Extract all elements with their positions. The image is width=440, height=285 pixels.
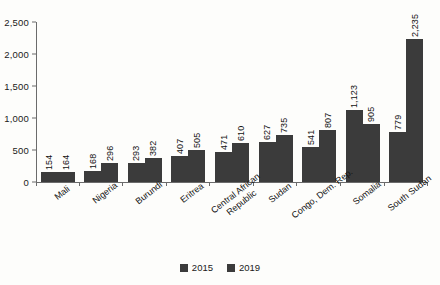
bar[interactable] xyxy=(58,172,75,182)
bar[interactable] xyxy=(215,152,232,182)
x-axis-category-label-line: Somalia xyxy=(351,179,383,207)
x-axis-tick-mark xyxy=(209,182,210,186)
bar[interactable] xyxy=(232,143,249,182)
x-axis-category-label-line: Mali xyxy=(52,184,71,202)
bar-group: 1,123905 xyxy=(341,22,385,182)
legend-swatch-icon xyxy=(227,264,235,272)
bar-group: 293382 xyxy=(123,22,167,182)
bar-container: 407 xyxy=(171,22,188,182)
bar[interactable] xyxy=(188,150,205,182)
chart-legend: 20152019 xyxy=(0,262,440,273)
bar-chart: 2,5002,0001,5001,0005000 154164168296293… xyxy=(0,0,440,285)
bar-container: 541 xyxy=(302,22,319,182)
bar[interactable] xyxy=(363,124,380,182)
bar-container: 779 xyxy=(389,22,406,182)
bar-value-label: 293 xyxy=(131,146,141,161)
bar[interactable] xyxy=(128,163,145,182)
x-axis-label-cell: Burundi xyxy=(123,187,167,249)
bar-value-label: 296 xyxy=(105,146,115,161)
bar-container: 168 xyxy=(84,22,101,182)
bar[interactable] xyxy=(259,142,276,182)
bar-container: 382 xyxy=(145,22,162,182)
bar-groups: 1541641682962933824075054716106277355418… xyxy=(36,22,428,182)
legend-item-label: 2019 xyxy=(239,262,260,273)
bar[interactable] xyxy=(84,171,101,182)
bar-value-label: 627 xyxy=(262,125,272,140)
x-axis-category-label-line: Sudan xyxy=(266,181,293,205)
bar[interactable] xyxy=(145,158,162,182)
bar-container: 807 xyxy=(319,22,336,182)
plot-area: 2,5002,0001,5001,0005000 154164168296293… xyxy=(36,22,428,182)
x-axis-label-cell: Somalia xyxy=(341,187,385,249)
bar-value-label: 471 xyxy=(219,135,229,150)
bar-container: 627 xyxy=(259,22,276,182)
bar[interactable] xyxy=(276,135,293,182)
x-axis-label-cell: Eritrea xyxy=(167,187,211,249)
x-axis-tick-mark xyxy=(384,182,385,186)
bar-value-label: 541 xyxy=(306,130,316,145)
legend-item[interactable]: 2019 xyxy=(227,262,260,273)
bar-group: 154164 xyxy=(36,22,80,182)
bar-group: 471610 xyxy=(210,22,254,182)
x-axis-category-label: Somalia xyxy=(351,179,383,207)
x-axis-tick-mark xyxy=(166,182,167,186)
bar-group: 407505 xyxy=(167,22,211,182)
legend-item[interactable]: 2015 xyxy=(180,262,213,273)
bar-container: 2,235 xyxy=(406,22,423,182)
bar-container: 471 xyxy=(215,22,232,182)
bar-value-label: 905 xyxy=(366,107,376,122)
bar-value-label: 2,235 xyxy=(410,14,420,37)
x-axis-category-label-line: Nigeria xyxy=(91,180,120,205)
bar-value-label: 807 xyxy=(323,113,333,128)
bar-value-label: 407 xyxy=(175,139,185,154)
x-axis-label-cell: Congo, Dem. Rep. xyxy=(297,187,341,249)
x-axis-category-labels: MaliNigeriaBurundiEritreaCentral African… xyxy=(36,187,428,249)
x-axis-tick-mark xyxy=(79,182,80,186)
bar[interactable] xyxy=(171,156,188,182)
x-axis-label-cell: Central AfricanRepublic xyxy=(210,187,254,249)
bar-value-label: 610 xyxy=(236,126,246,141)
bar-container: 154 xyxy=(41,22,58,182)
legend-swatch-icon xyxy=(180,264,188,272)
legend-item-label: 2015 xyxy=(192,262,213,273)
bar-value-label: 382 xyxy=(148,140,158,155)
bar-group: 541807 xyxy=(297,22,341,182)
bar-value-label: 1,123 xyxy=(349,85,359,108)
x-axis-tick-mark xyxy=(36,182,37,186)
x-axis-line xyxy=(36,182,428,183)
bar[interactable] xyxy=(101,163,118,182)
bar-value-label: 168 xyxy=(88,154,98,169)
bar-container: 293 xyxy=(128,22,145,182)
x-axis-category-label: Eritrea xyxy=(179,181,206,206)
bar-value-label: 505 xyxy=(192,132,202,147)
bar-group: 168296 xyxy=(80,22,124,182)
bar[interactable] xyxy=(41,172,58,182)
bar-value-label: 154 xyxy=(44,155,54,170)
bar-container: 164 xyxy=(58,22,75,182)
x-axis-category-label: Burundi xyxy=(133,179,164,206)
x-axis-category-label: Nigeria xyxy=(91,180,120,206)
x-axis-label-cell: Mali xyxy=(36,187,80,249)
x-axis-label-cell: Sudan xyxy=(254,187,298,249)
bar-container: 905 xyxy=(363,22,380,182)
bar-value-label: 779 xyxy=(393,115,403,130)
bar[interactable] xyxy=(302,147,319,182)
bar-value-label: 735 xyxy=(279,118,289,133)
bar[interactable] xyxy=(406,39,423,182)
x-axis-label-cell: South Sudan xyxy=(385,187,429,249)
bar-container: 296 xyxy=(101,22,118,182)
x-axis-tick-mark xyxy=(122,182,123,186)
x-axis-category-label-line: Eritrea xyxy=(179,181,206,205)
bar-group: 627735 xyxy=(254,22,298,182)
bar-container: 505 xyxy=(188,22,205,182)
bar[interactable] xyxy=(319,130,336,182)
x-axis-category-label: Sudan xyxy=(266,181,293,205)
bar[interactable] xyxy=(389,132,406,182)
x-axis-tick-mark xyxy=(296,182,297,186)
bar-container: 735 xyxy=(276,22,293,182)
bar-container: 610 xyxy=(232,22,249,182)
x-axis-category-label-line: Burundi xyxy=(133,179,164,206)
bar-group: 7792,235 xyxy=(385,22,429,182)
x-axis-label-cell: Nigeria xyxy=(80,187,124,249)
bar-value-label: 164 xyxy=(61,154,71,169)
